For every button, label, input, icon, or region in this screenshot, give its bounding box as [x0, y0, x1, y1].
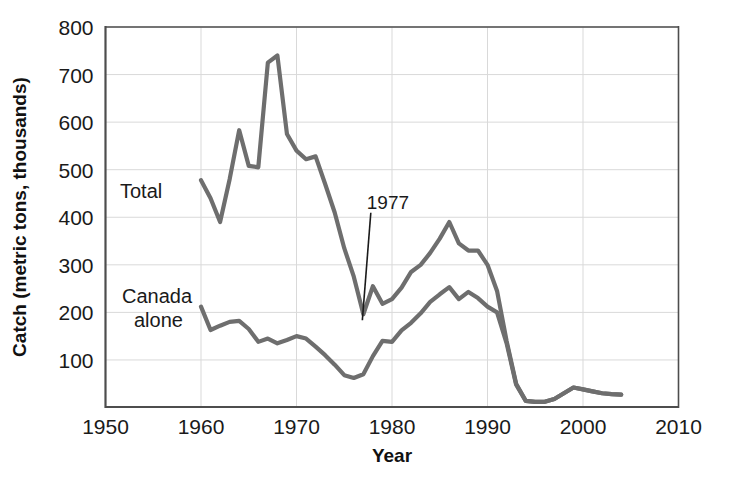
chart-figure: 100200300400500600700800 195019601970198…	[0, 0, 733, 480]
y-tick-label: 100	[58, 349, 93, 372]
x-tick-label: 1970	[273, 415, 320, 438]
y-axis-title: Catch (metric tons, thousands)	[9, 77, 30, 357]
annotation-1977-label: 1977	[367, 192, 409, 213]
y-tick-label: 500	[58, 159, 93, 182]
series-label-total: Total	[120, 180, 162, 202]
y-tick-label: 800	[58, 16, 93, 39]
y-tick-label: 200	[58, 301, 93, 324]
y-tick-label: 600	[58, 111, 93, 134]
y-tick-label: 700	[58, 64, 93, 87]
series-label-canada-line2: alone	[134, 309, 183, 331]
x-tick-label: 2000	[560, 415, 607, 438]
x-tick-label: 1980	[369, 415, 416, 438]
series-label-canada-line1: Canada	[122, 285, 193, 307]
x-tick-label: 2010	[655, 415, 702, 438]
line-chart-canvas: 100200300400500600700800 195019601970198…	[0, 0, 733, 480]
x-tick-label: 1990	[464, 415, 511, 438]
y-tick-label: 300	[58, 254, 93, 277]
x-tick-label: 1960	[178, 415, 225, 438]
x-tick-label: 1950	[82, 415, 129, 438]
x-axis-title: Year	[372, 445, 413, 466]
y-tick-label: 400	[58, 206, 93, 229]
